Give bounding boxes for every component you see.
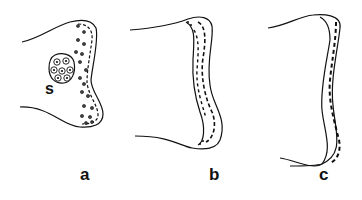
panel-a-drawing: [20, 20, 103, 127]
panel-b-inner: [186, 22, 204, 145]
diagram-canvas: [0, 0, 362, 200]
panel-c-inner: [290, 17, 330, 166]
panel-b-dashes-inner: [194, 30, 206, 118]
panel-c-outer: [268, 15, 340, 166]
panel-b-outer: [130, 17, 222, 149]
panel-c-label: c: [319, 165, 328, 185]
panel-c-drawing: [268, 15, 340, 166]
panel-b-drawing: [130, 17, 222, 149]
panel-b-label: b: [209, 165, 219, 185]
spore-cluster-label: s: [45, 80, 54, 98]
panel-a-inner-line: [78, 24, 98, 124]
panel-a-label: a: [80, 165, 89, 185]
panel-a-dots: [74, 25, 93, 125]
panel-b-dots: [187, 21, 204, 145]
